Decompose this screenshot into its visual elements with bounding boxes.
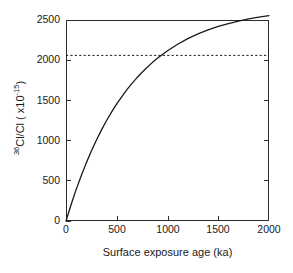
x-tick-1500 (218, 216, 219, 221)
y-tick-right-500 (264, 180, 269, 181)
x-tick-label-2000: 2000 (244, 224, 293, 235)
y-axis-label-container: 36Cl/Cl ( x10-15) (12, 18, 28, 218)
y-tick-right-1500 (264, 100, 269, 101)
y-tick-0 (66, 221, 71, 222)
y-axis-label-isotope-superscript: 36 (12, 147, 21, 155)
x-tick-label-0: 0 (41, 224, 91, 235)
y-axis-label-exponent: -15 (12, 85, 21, 96)
chart-figure: 0 500 1000 1500 2000 2500 0 500 1000 150… (0, 0, 293, 273)
x-tick-label-1500: 1500 (193, 224, 243, 235)
y-tick-2000 (66, 60, 71, 61)
data-series-group (66, 16, 269, 221)
y-tick-1500 (66, 100, 71, 101)
y-tick-2500 (66, 20, 71, 21)
y-tick-right-2000 (264, 60, 269, 61)
y-tick-right-1000 (264, 140, 269, 141)
y-axis-label-body: Cl/Cl ( x10 (14, 95, 26, 146)
build-up-curve (66, 16, 269, 221)
x-axis-label: Surface exposure age (ka) (66, 246, 269, 258)
y-axis-label-close: ) (14, 81, 26, 85)
x-tick-label-500: 500 (92, 224, 142, 235)
x-tick-label-1000: 1000 (143, 224, 193, 235)
y-axis-label: 36Cl/Cl ( x10-15) (14, 81, 26, 155)
y-tick-1000 (66, 140, 71, 141)
plot-canvas (66, 20, 269, 221)
y-tick-500 (66, 180, 71, 181)
x-tick-1000 (168, 216, 169, 221)
x-tick-500 (117, 216, 118, 221)
